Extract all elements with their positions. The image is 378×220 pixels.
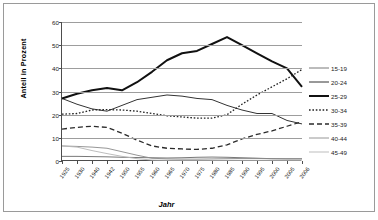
series-line-30-34 xyxy=(62,69,302,118)
gridline xyxy=(62,138,302,139)
y-tick-label: 40 xyxy=(52,65,59,72)
legend-swatch-35-39 xyxy=(309,120,329,128)
legend-item-25-29[interactable]: 25-29 xyxy=(309,89,377,103)
y-tick-label: 60 xyxy=(52,19,59,26)
gridline xyxy=(62,45,302,46)
x-tick-label: 2006 xyxy=(298,166,310,180)
x-tick-label: 1965 xyxy=(163,166,175,180)
x-tick-label: 2005 xyxy=(283,166,295,180)
x-tick-label: 1970 xyxy=(178,166,190,180)
legend-label: 30-34 xyxy=(331,107,347,114)
gridline xyxy=(62,92,302,93)
x-tick-label: 1955 xyxy=(133,166,145,180)
y-tick-mark xyxy=(59,68,62,69)
x-tick-label: 1990 xyxy=(238,166,250,180)
x-tick-mark xyxy=(107,161,108,164)
x-tick-mark xyxy=(227,161,228,164)
legend-swatch-20-24 xyxy=(309,78,329,86)
x-tick-mark xyxy=(92,161,93,164)
y-tick-label: 50 xyxy=(52,42,59,49)
x-tick-label: 2000 xyxy=(268,166,280,180)
x-tick-mark xyxy=(287,161,288,164)
x-axis-title: Jahr xyxy=(34,200,299,209)
y-tick-mark xyxy=(59,138,62,139)
y-tick-mark xyxy=(59,92,62,93)
x-tick-mark xyxy=(122,161,123,164)
x-tick-mark xyxy=(302,161,303,164)
legend-swatch-40-44 xyxy=(309,134,329,142)
x-tick-mark xyxy=(212,161,213,164)
legend-label: 35-39 xyxy=(331,121,347,128)
x-tick-mark xyxy=(242,161,243,164)
x-tick-mark xyxy=(62,161,63,164)
x-tick-mark xyxy=(152,161,153,164)
y-tick-label: 30 xyxy=(52,88,59,95)
y-tick-mark xyxy=(59,22,62,23)
series-line-40-44 xyxy=(62,146,302,159)
x-tick-label: 1940 xyxy=(88,166,100,180)
gridline xyxy=(62,22,302,23)
legend-label: 25-29 xyxy=(331,93,347,100)
legend-label: 40-44 xyxy=(331,135,347,142)
legend-swatch-15-19 xyxy=(309,64,329,72)
x-tick-mark xyxy=(257,161,258,164)
series-line-35-39 xyxy=(62,122,302,150)
chart-figure: Anteil in Prozent 0102030405060192519301… xyxy=(0,0,378,220)
legend-item-30-34[interactable]: 30-34 xyxy=(309,103,377,117)
x-tick-label: 1930 xyxy=(73,166,85,180)
x-tick-label: 1925 xyxy=(58,166,70,180)
x-tick-label: 1960 xyxy=(148,166,160,180)
x-tick-label: 1980 xyxy=(208,166,220,180)
x-tick-mark xyxy=(77,161,78,164)
series-line-20-24 xyxy=(62,95,302,124)
chart-frame: Anteil in Prozent 0102030405060192519301… xyxy=(3,3,375,212)
gridline xyxy=(62,68,302,69)
gridline xyxy=(62,115,302,116)
y-tick-label: 10 xyxy=(52,134,59,141)
legend-label: 15-19 xyxy=(331,65,347,72)
legend-item-45-49[interactable]: 45-49 xyxy=(309,145,377,159)
y-tick-mark xyxy=(59,45,62,46)
legend-swatch-30-34 xyxy=(309,106,329,114)
x-tick-mark xyxy=(182,161,183,164)
legend-label: 20-24 xyxy=(331,79,347,86)
y-axis-title: Anteil in Prozent xyxy=(19,14,28,124)
x-tick-label: 1975 xyxy=(193,166,205,180)
x-tick-label: 1942 xyxy=(103,166,115,180)
legend-swatch-45-49 xyxy=(309,148,329,156)
legend-label: 45-49 xyxy=(331,149,347,156)
legend-item-40-44[interactable]: 40-44 xyxy=(309,131,377,145)
x-tick-label: 1985 xyxy=(223,166,235,180)
legend-item-20-24[interactable]: 20-24 xyxy=(309,75,377,89)
legend-item-35-39[interactable]: 35-39 xyxy=(309,117,377,131)
x-tick-mark xyxy=(272,161,273,164)
x-tick-label: 1995 xyxy=(253,166,265,180)
y-tick-mark xyxy=(59,115,62,116)
legend-swatch-25-29 xyxy=(309,92,329,100)
y-tick-label: 20 xyxy=(52,111,59,118)
plot-area: 0102030405060192519301940194219501955196… xyxy=(61,22,301,161)
x-tick-mark xyxy=(167,161,168,164)
x-tick-mark xyxy=(197,161,198,164)
x-tick-mark xyxy=(137,161,138,164)
x-tick-label: 1950 xyxy=(118,166,130,180)
chart-legend: 15-1920-2425-2930-3435-3940-4445-49 xyxy=(309,61,377,159)
legend-item-15-19[interactable]: 15-19 xyxy=(309,61,377,75)
